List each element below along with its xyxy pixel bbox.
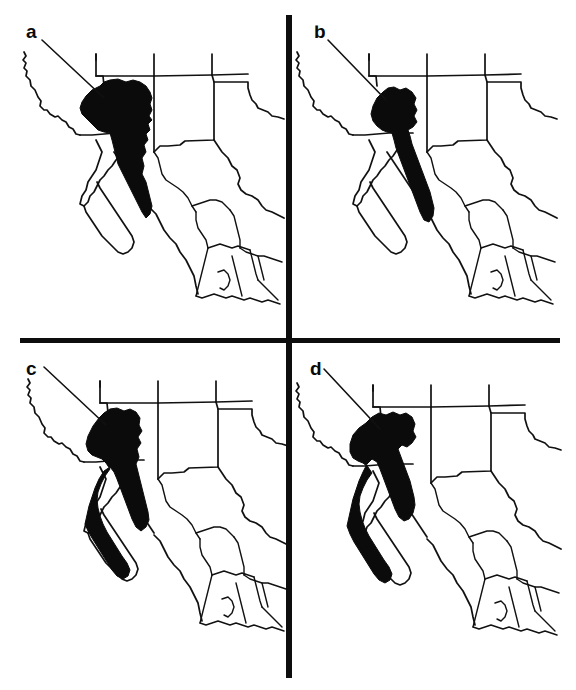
panel-divider-vertical: [286, 15, 292, 678]
map-outlines-b: [296, 52, 557, 304]
leader-line-c: [44, 367, 106, 425]
leader-line-a: [42, 40, 104, 98]
map-outlines-c: [27, 379, 288, 631]
distribution-map-figure: a: [0, 0, 576, 690]
panel-label-a: a: [26, 22, 37, 41]
panel-a: a: [0, 0, 288, 345]
range-shading-d: [347, 412, 416, 583]
panel-d: d: [288, 345, 576, 690]
panel-label-d: d: [310, 359, 322, 378]
panel-c: c: [0, 345, 288, 690]
panel-label-c: c: [26, 359, 37, 378]
range-shading-a: [80, 79, 152, 218]
panel-b: b: [288, 0, 576, 345]
map-outlines-d: [296, 383, 561, 635]
map-outlines-a: [23, 52, 284, 304]
leader-line-b: [328, 40, 386, 100]
leader-line-d: [324, 369, 380, 429]
range-shading-b: [371, 87, 434, 222]
range-shading-c: [85, 408, 149, 579]
panel-divider-horizontal: [20, 338, 560, 343]
